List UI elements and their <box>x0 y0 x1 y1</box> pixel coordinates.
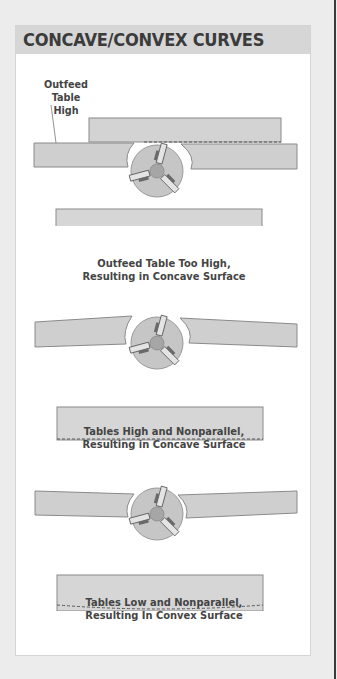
cutterhead-icon <box>129 142 183 197</box>
caption-2-line-2: Resulting in Concave Surface <box>31 438 297 451</box>
page-edge-divider <box>334 0 336 679</box>
caption-1-line-1: Outfeed Table Too High, <box>31 257 297 270</box>
caption-2: Tables High and Nonparallel, Resulting i… <box>16 425 312 451</box>
cutterhead-icon <box>129 485 183 540</box>
jointer-diagram-3 <box>16 461 312 611</box>
caption-3-line-1: Tables Low and Nonparallel, <box>31 596 297 609</box>
jointer-diagram-1 <box>16 26 312 226</box>
caption-1: Outfeed Table Too High, Resulting in Con… <box>16 257 312 283</box>
caption-2-line-1: Tables High and Nonparallel, <box>31 425 297 438</box>
jointer-diagram-2 <box>16 291 312 441</box>
caption-3-line-2: Resulting In Convex Surface <box>31 609 297 622</box>
concave-convex-panel: CONCAVE/CONVEX CURVES Outfeed Table High <box>15 25 311 656</box>
caption-1-line-2: Resulting in Concave Surface <box>31 270 297 283</box>
cutterhead-icon <box>129 314 183 369</box>
caption-3: Tables Low and Nonparallel, Resulting In… <box>16 596 312 622</box>
